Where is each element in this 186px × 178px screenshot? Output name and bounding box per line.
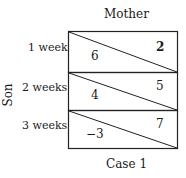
son-payoff-row2: 4 [91,88,99,102]
mother-payoff-row2: 5 [156,79,164,93]
row-player-label: Son [1,83,15,106]
son-payoff-row3: −3 [86,127,104,141]
row-label-3-weeks: 3 weeks [22,119,67,132]
row-label-1-week: 1 week [28,41,68,54]
mother-payoff-row1: 2 [156,40,164,54]
column-player-label: Mother [104,7,149,21]
row-label-2-weeks: 2 weeks [22,81,67,94]
mother-payoff-row3: 7 [156,117,164,131]
son-payoff-row1: 6 [91,49,99,63]
case-caption: Case 1 [106,157,147,171]
